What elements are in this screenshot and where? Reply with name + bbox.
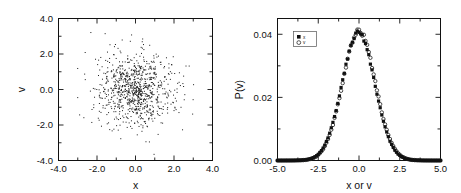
right-legend: x v [294,32,317,47]
right-y-tick-labels: 0.00 0.02 0.04 [254,29,273,166]
series-x-markers [276,30,442,163]
right-x-tick-labels: -5.0 -2.5 0.0 2.5 5.0 [269,163,447,174]
series-v-markers [276,28,442,162]
right-ytick-label-2: 0.04 [254,29,273,40]
right-xtick-label-4: 5.0 [434,163,447,174]
right-x-axis-label: x or v [346,179,372,191]
legend-open-circle-icon [297,41,301,45]
right-ytick-label-0: 0.00 [254,155,273,166]
right-xtick-label-3: 2.5 [393,163,406,174]
legend-filled-square-icon [297,35,301,39]
right-distribution-panel: x v -5.0 -2.5 0.0 2.5 5.0 0.00 0.02 0.04… [0,0,461,193]
right-xtick-label-1: -2.5 [310,163,326,174]
two-panel-figure: -4.0 -2.0 0.0 2.0 4.0 -4.0 -2.0 0.0 2.0 … [0,0,461,193]
right-panel-svg: x v -5.0 -2.5 0.0 2.5 5.0 0.00 0.02 0.04… [0,0,461,193]
right-xtick-label-2: 0.0 [352,163,365,174]
right-y-axis-label: P(v) [233,80,245,99]
right-ytick-label-1: 0.02 [254,92,273,103]
